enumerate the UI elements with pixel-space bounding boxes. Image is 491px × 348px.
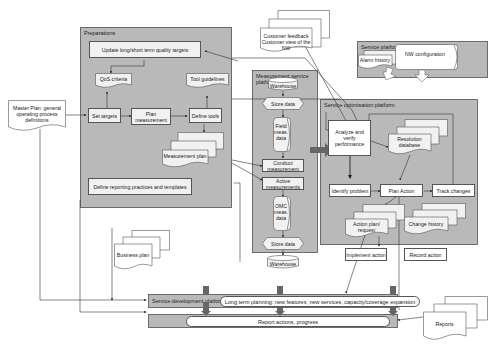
development-platform-title: Service development platform xyxy=(152,298,225,304)
implement-action-label: Implement action xyxy=(346,252,386,258)
identify-problem-box: Identify problem xyxy=(329,184,371,197)
omc-meas-data-cylinder: OMC meas. data xyxy=(273,196,293,231)
plan-action-box: Plan Action xyxy=(380,184,423,197)
conduct-measurement-box: Conduct measurement xyxy=(262,159,304,172)
plan-measurement-label: Plan measurement xyxy=(132,111,170,123)
warehouse-top-cylinder: Warehouse xyxy=(268,77,298,91)
long-term-planning-label: Long term planning: new features, new se… xyxy=(225,299,415,305)
conduct-measurement-label: Conduct measurement xyxy=(263,160,303,172)
qos-criteria-label: QoS criteria xyxy=(95,76,132,82)
alarm-history-document: Alarm history xyxy=(358,50,398,70)
warehouse-bottom-label: Warehouse xyxy=(267,261,299,267)
tool-guidelines-document: Tool guidelines xyxy=(186,73,229,88)
active-measurements-label: Active measurements xyxy=(263,178,303,190)
master-plan-label: Master Plan: general operating process d… xyxy=(8,105,66,123)
define-reporting-label: Define reporting practices and templates xyxy=(93,184,186,190)
implement-action-box: Implement action xyxy=(345,248,387,261)
store-data-top-label: Store data xyxy=(262,101,304,107)
track-changes-box: Track changes xyxy=(432,184,475,197)
set-targets-box: Set targets xyxy=(88,108,121,123)
define-tools-box: Define tools xyxy=(189,108,222,123)
define-tools-label: Define tools xyxy=(192,113,219,119)
long-term-planning-pill: Long term planning: new features, new se… xyxy=(220,296,420,307)
field-meas-data-cylinder: Field meas. data xyxy=(273,117,293,152)
reports-label: Reports xyxy=(423,321,466,327)
business-plan-document: Business plan xyxy=(114,230,170,272)
customer-feedback-document: Customer feedback Customer view of the N… xyxy=(260,10,330,55)
active-measurements-box: Active measurements xyxy=(262,177,304,190)
analyze-verify-box: Analyze and verify performance xyxy=(328,120,371,156)
action-plan-request-label: Action plan/ request xyxy=(345,221,388,233)
store-data-bottom-hexagon: Store data xyxy=(262,237,304,250)
store-data-bottom-label: Store data xyxy=(262,241,304,247)
master-plan-document: Master Plan: general operating process d… xyxy=(8,100,66,132)
plan-action-label: Plan Action xyxy=(389,188,415,194)
change-history-document: Change history xyxy=(404,203,466,235)
measurement-plan-label: Measurement plan xyxy=(162,153,208,159)
analyze-verify-label: Analyze and verify performance xyxy=(329,129,370,147)
track-changes-label: Track changes xyxy=(437,188,471,194)
change-history-label: Change history xyxy=(404,221,448,227)
record-action-label: Record action xyxy=(409,252,441,258)
report-actions-label: Report actions, progress xyxy=(258,319,318,325)
reports-document: Reports xyxy=(423,296,488,342)
measurement-plan-document: Measurement plan xyxy=(162,132,224,170)
record-action-box: Record action xyxy=(404,248,447,261)
customer-feedback-label: Customer feedback Customer view of the N… xyxy=(260,33,312,51)
tool-guidelines-label: Tool guidelines xyxy=(186,76,229,82)
update-targets-label: Update long/short term quality targets xyxy=(102,47,189,53)
resolution-database-document: Resolution database xyxy=(388,119,448,155)
resolution-database-label: Resolution database xyxy=(388,136,431,148)
plan-measurement-box: Plan measurement xyxy=(131,108,171,125)
qos-criteria-document: QoS criteria xyxy=(95,73,132,88)
action-plan-request-document: Action plan/ request xyxy=(345,204,405,238)
set-targets-label: Set targets xyxy=(92,113,117,119)
warehouse-top-label: Warehouse xyxy=(268,83,298,89)
identify-problem-label: Identify problem xyxy=(332,188,369,194)
preparations-title: Preparations xyxy=(84,30,115,36)
omc-meas-data-label: OMC meas. data xyxy=(273,203,289,221)
update-targets-box: Update long/short term quality targets xyxy=(89,41,201,58)
nw-configuration-label: NW configuration xyxy=(395,51,455,57)
warehouse-bottom-cylinder: Warehouse xyxy=(267,255,299,269)
store-data-top-hexagon: Store data xyxy=(262,97,304,110)
nw-configuration-cylinder: NW configuration xyxy=(395,44,460,70)
business-plan-label: Business plan xyxy=(114,252,152,258)
alarm-history-label: Alarm history xyxy=(358,57,392,63)
define-reporting-box: Define reporting practices and templates xyxy=(88,178,192,195)
field-meas-data-label: Field meas. data xyxy=(273,123,289,141)
report-actions-pill: Report actions, progress xyxy=(186,316,390,327)
optimisation-platform-title: Service optimisation platform xyxy=(324,102,395,108)
